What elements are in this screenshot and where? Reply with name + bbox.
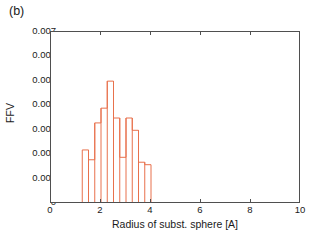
x-tick-mark-top-8 (250, 31, 251, 35)
panel-label: (b) (9, 4, 24, 18)
histogram-bin-dividers (51, 81, 299, 202)
x-tick-mark-top-2 (100, 31, 101, 35)
x-tick-label-10: 10 (290, 204, 310, 215)
histogram-step-path (82, 81, 151, 202)
figure-panel-b: (b) 0.007 0.006 0.005 0.004 0.003 0.002 … (0, 0, 310, 234)
y-axis-label: FFV (4, 93, 16, 133)
x-tick-mark-top-4 (150, 31, 151, 35)
x-tick-mark-bottom-2 (100, 199, 101, 203)
x-tick-mark-top-6 (200, 31, 201, 35)
x-tick-mark-bottom-4 (150, 199, 151, 203)
histogram-bars (51, 32, 299, 202)
x-tick-label-4: 4 (140, 204, 160, 215)
plot-area (50, 31, 300, 203)
histogram-outline-svg (51, 32, 299, 202)
x-tick-label-8: 8 (240, 204, 260, 215)
x-axis-label: Radius of subst. sphere [A] (50, 218, 300, 230)
x-tick-label-0: 0 (40, 204, 60, 215)
x-tick-label-6: 6 (190, 204, 210, 215)
x-tick-mark-bottom-8 (250, 199, 251, 203)
x-tick-label-2: 2 (90, 204, 110, 215)
x-tick-mark-bottom-6 (200, 199, 201, 203)
